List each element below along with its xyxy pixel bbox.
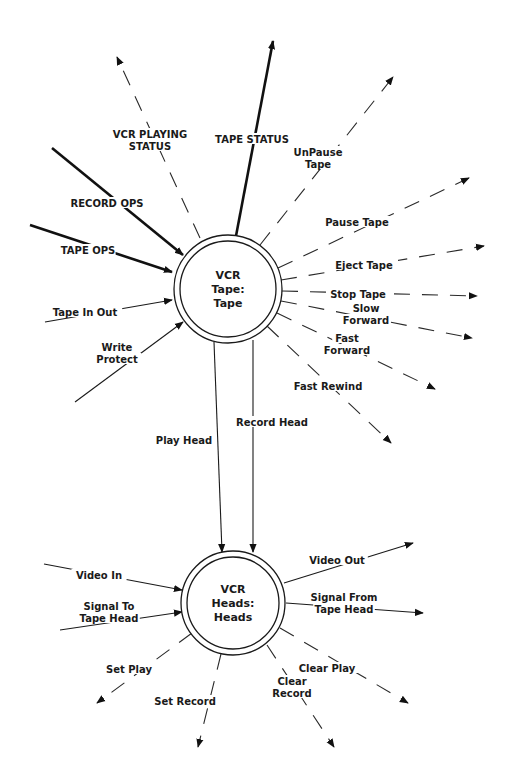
flow-label-text: RECORD OPS <box>71 198 144 209</box>
flow-label-text: Write <box>102 342 133 353</box>
flow-label-record-head: Record Head <box>235 416 309 428</box>
flow-label-text: Signal From <box>311 592 378 603</box>
flow-label-fast-rewind: Fast Rewind <box>291 380 365 392</box>
flow-label-text: Video Out <box>309 555 365 566</box>
flow-label-text: Clear <box>277 676 306 687</box>
flow-label-text: Slow <box>353 303 380 314</box>
flow-label-text: Tape In Out <box>53 307 118 318</box>
flow-label-text: Record <box>272 688 311 699</box>
flow-label-play-head: Play Head <box>153 434 215 446</box>
flow-label-text: Record Head <box>236 417 308 428</box>
flow-label-video-out: Video Out <box>306 554 368 566</box>
flow-label-clear-record: ClearRecord <box>271 675 313 699</box>
flow-label-unpause-tape: UnPauseTape <box>294 146 343 170</box>
flow-label-text: Tape Head <box>315 604 374 615</box>
diagram-canvas: VCRTape:TapeVCRHeads:Heads VCR PLAYINGST… <box>0 0 506 774</box>
flow-label-text: Signal To <box>84 601 135 612</box>
process-node-tape[interactable]: VCRTape:Tape <box>174 235 282 343</box>
flow-label-text: Clear Play <box>299 663 356 674</box>
node-label: Tape: <box>211 283 244 296</box>
flow-label-text: Play Head <box>156 435 212 446</box>
flow-label-text: Fast Rewind <box>294 381 363 392</box>
flow-label-text: VCR PLAYING <box>113 129 187 140</box>
flow-label-text: Pause Tape <box>325 217 389 228</box>
node-label: VCR <box>215 269 241 282</box>
flow-label-write-protect: WriteProtect <box>93 341 142 365</box>
flow-label-text: Fast <box>335 333 359 344</box>
flow-label-set-record: Set Record <box>151 695 219 707</box>
flow-label-text: Tape Head <box>80 613 139 624</box>
flow-label-text: Video In <box>76 570 122 581</box>
flow-label-text: STATUS <box>129 141 171 152</box>
flow-label-text: Forward <box>343 315 389 326</box>
flow-label-fast-forward: FastForward <box>323 332 372 356</box>
flow-label-text: Stop Tape <box>330 289 386 300</box>
flow-label-text: TAPE STATUS <box>215 134 289 145</box>
flow-label-clear-play: Clear Play <box>293 662 361 674</box>
node-label: Heads: <box>212 597 255 610</box>
flow-label-tape-ops: TAPE OPS <box>60 244 115 256</box>
flow-label-slow-forward: SlowForward <box>342 302 391 326</box>
flow-label-text: Forward <box>324 345 370 356</box>
flow-label-eject-tape: Eject Tape <box>330 259 398 271</box>
process-node-heads[interactable]: VCRHeads:Heads <box>181 551 285 655</box>
flow-label-stop-tape: Stop Tape <box>327 288 389 300</box>
flow-label-text: Tape <box>305 159 331 170</box>
flow-label-signal-to-tape-head: Signal ToTape Head <box>78 600 140 624</box>
flow-label-set-play: Set Play <box>101 663 156 675</box>
node-label: Heads <box>214 611 253 624</box>
flow-label-text: UnPause <box>294 147 343 158</box>
flow-label-pause-tape: Pause Tape <box>323 216 391 228</box>
node-label: Tape <box>214 297 243 310</box>
flow-label-video-in: Video In <box>71 569 126 581</box>
flow-label-text: Protect <box>96 354 138 365</box>
flow-label-signal-from-tape-head: Signal FromTape Head <box>307 591 381 615</box>
flow-line-play-head <box>214 342 222 552</box>
flow-label-record-ops: RECORD OPS <box>71 197 144 209</box>
flow-label-text: Set Record <box>154 696 216 707</box>
flow-label-tape-status: TAPE STATUS <box>215 133 289 145</box>
flow-label-vcr-playing-status: VCR PLAYINGSTATUS <box>113 128 187 152</box>
flow-label-tape-in-out: Tape In Out <box>48 306 122 318</box>
flow-label-text: TAPE OPS <box>61 245 115 256</box>
node-label: VCR <box>220 583 246 596</box>
flow-label-text: Eject Tape <box>335 260 393 271</box>
flow-label-text: Set Play <box>106 664 152 675</box>
flow-play-head[interactable] <box>214 342 222 552</box>
